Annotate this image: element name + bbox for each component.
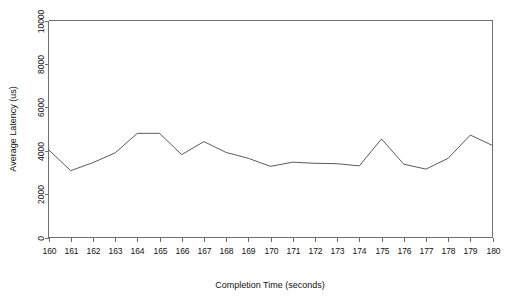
x-tick-label: 169	[241, 246, 255, 256]
x-tick-label: 172	[308, 246, 322, 256]
x-tick-label: 177	[419, 246, 433, 256]
x-tick-label: 168	[219, 246, 233, 256]
x-tick-label: 165	[153, 246, 167, 256]
data-series-group	[49, 133, 493, 170]
x-axis-ticks	[50, 238, 494, 242]
x-tick-label: 180	[486, 246, 500, 256]
x-tick-label: 176	[397, 246, 411, 256]
x-axis-tick-labels: 1601611621631641651661671681691701711721…	[42, 246, 500, 256]
y-axis-title: Average Latency (us)	[8, 86, 18, 171]
y-tick-label: 6000	[36, 98, 46, 117]
x-tick-label: 178	[441, 246, 455, 256]
average-latency-line	[49, 133, 493, 170]
x-tick-label: 175	[375, 246, 389, 256]
x-tick-label: 179	[463, 246, 477, 256]
x-axis-title: Completion Time (seconds)	[215, 280, 325, 290]
chart-canvas: 0200040006000800010000 16016116216316416…	[0, 0, 511, 298]
plot-frame	[49, 21, 493, 238]
x-tick-label: 170	[264, 246, 278, 256]
x-tick-label: 162	[86, 246, 100, 256]
x-tick-label: 171	[286, 246, 300, 256]
y-tick-label: 8000	[36, 55, 46, 74]
latency-line-chart: 0200040006000800010000 16016116216316416…	[0, 0, 511, 298]
y-axis-ticks	[45, 22, 49, 239]
y-tick-label: 2000	[36, 185, 46, 204]
x-tick-label: 160	[42, 246, 56, 256]
y-tick-label: 0	[36, 236, 46, 241]
x-tick-label: 173	[330, 246, 344, 256]
x-tick-label: 163	[108, 246, 122, 256]
y-tick-label: 4000	[36, 142, 46, 161]
x-tick-label: 167	[197, 246, 211, 256]
x-tick-label: 164	[130, 246, 144, 256]
y-axis-tick-labels: 0200040006000800010000	[36, 9, 46, 240]
y-tick-label: 10000	[36, 9, 46, 33]
x-tick-label: 166	[175, 246, 189, 256]
x-tick-label: 174	[352, 246, 366, 256]
x-tick-label: 161	[64, 246, 78, 256]
